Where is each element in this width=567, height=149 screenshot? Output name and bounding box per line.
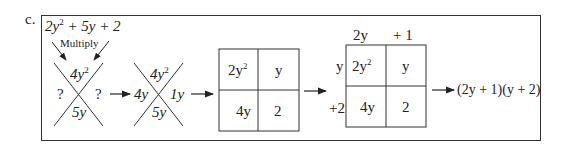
grid2-cell-0: 2y2 (352, 58, 372, 75)
grid2-cell-2: 4y (360, 99, 375, 116)
x2-bottom: 5y (152, 104, 166, 121)
grid2-cell-3: 2 (402, 99, 410, 116)
x1-bottom: 5y (72, 104, 86, 121)
x1-left: ? (57, 86, 64, 103)
trinomial-expression: 2y2 + 5y + 2 (45, 18, 121, 35)
x2-top: 4y2 (150, 66, 169, 83)
grid2-cell-1: y (402, 58, 410, 75)
multiply-label: Multiply (60, 37, 99, 49)
grid1-cell-3: 2 (274, 103, 282, 120)
grid1-cell-0: 2y2 (228, 62, 248, 79)
grid1-cell-1: y (275, 62, 283, 79)
grid1-cell-2: 4y (236, 103, 251, 120)
grid2-top-label-1: + 1 (393, 27, 413, 44)
factored-result: (2y + 1)(y + 2) (457, 82, 540, 98)
x2-left: 4y (134, 86, 148, 103)
grid2-side-label-0: y (336, 58, 344, 75)
x2-right: 1y (170, 86, 184, 103)
grid2-top-label-0: 2y (353, 27, 368, 44)
x1-top: 4y2 (70, 66, 89, 83)
grid2-side-label-1: +2 (329, 100, 345, 117)
x1-right: ? (95, 86, 102, 103)
